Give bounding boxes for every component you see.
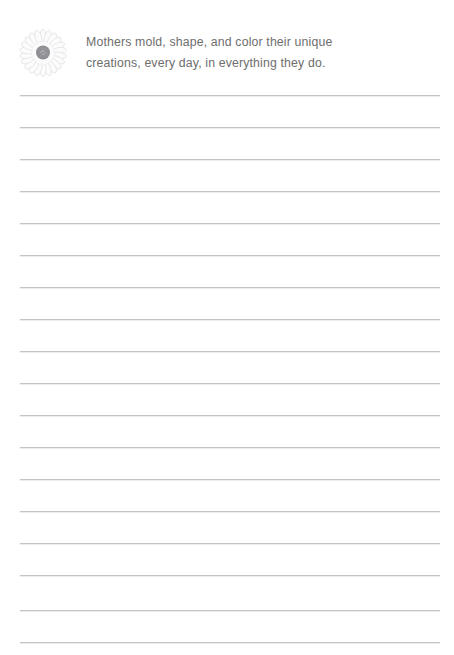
- writing-rule-line: [20, 383, 440, 384]
- writing-rule-line: [20, 543, 440, 544]
- writing-rule-line: [20, 610, 440, 611]
- writing-rule-line: [20, 351, 440, 352]
- writing-rule-line: [20, 642, 440, 643]
- writing-rule-line: [20, 255, 440, 256]
- writing-lines-area: [0, 0, 454, 655]
- writing-rule-line: [20, 511, 440, 512]
- stationery-page: Mothers mold, shape, and color their uni…: [0, 0, 454, 655]
- writing-rule-line: [20, 479, 440, 480]
- writing-rule-line: [20, 191, 440, 192]
- writing-rule-line: [20, 415, 440, 416]
- writing-rule-line: [20, 95, 440, 96]
- writing-rule-line: [20, 127, 440, 128]
- writing-rule-line: [20, 575, 440, 576]
- writing-rule-line: [20, 447, 440, 448]
- writing-rule-line: [20, 223, 440, 224]
- writing-rule-line: [20, 159, 440, 160]
- writing-rule-line: [20, 287, 440, 288]
- writing-rule-line: [20, 319, 440, 320]
